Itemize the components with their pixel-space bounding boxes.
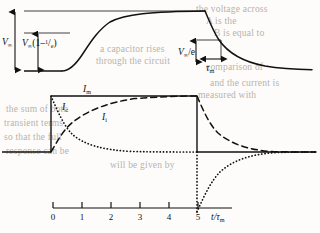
v-infinity-label: V∞ [2, 37, 13, 48]
ii-label: Ii [101, 112, 107, 123]
current-panel: Im Ic Ii [2, 84, 316, 212]
x-tick-label-2: 2 [109, 212, 114, 222]
transient-response-figure: V∞ V∞(1–1/e) V∞/e τm [0, 0, 320, 233]
voltage-curve [62, 11, 205, 71]
x-axis-label: t/τm [211, 212, 225, 223]
ic-decay-curve [51, 96, 197, 152]
v-over-e-label: V∞/e [178, 47, 195, 58]
x-tick-label-3: 3 [138, 212, 143, 222]
x-tick-label-5: 5 [196, 212, 201, 222]
x-tick-label-1: 1 [80, 212, 85, 222]
x-tick-label-0: 0 [51, 212, 56, 222]
ic-negative-recovery-curve [197, 152, 316, 212]
ii-rise-curve [51, 96, 197, 152]
x-axis: 0 1 2 3 4 5 t/τm [51, 202, 232, 223]
tau-m-label: τm [206, 63, 214, 74]
im-label: Im [82, 84, 91, 95]
ic-label: Ic [61, 102, 68, 113]
v-step-label: V∞(1–1/e) [22, 38, 57, 50]
ii-decay-curve [197, 96, 316, 152]
voltage-panel: V∞ V∞(1–1/e) V∞/e τm [2, 11, 312, 74]
x-tick-label-4: 4 [167, 212, 172, 222]
